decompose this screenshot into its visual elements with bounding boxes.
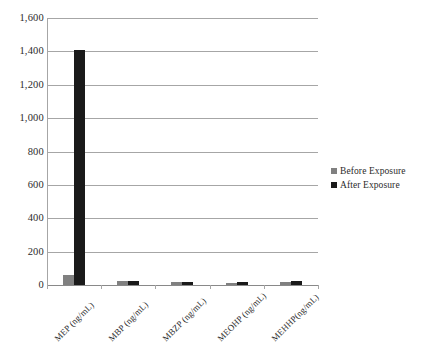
y-axis-tick-label: 200 — [0, 247, 44, 258]
bar-before-exposure — [63, 275, 74, 285]
x-axis-tick — [47, 285, 48, 289]
y-axis-tick-label: 600 — [0, 180, 44, 191]
bar-before-exposure — [171, 282, 182, 285]
bar-before-exposure — [280, 282, 291, 285]
y-axis-tick-label: 800 — [0, 147, 44, 158]
x-axis-tick — [101, 285, 102, 289]
y-axis-tick-label: 1,600 — [0, 13, 44, 24]
legend-label: After Exposure — [340, 178, 400, 192]
y-axis-tick-label: 0 — [0, 280, 44, 291]
bar-group — [264, 18, 318, 285]
x-axis-category-label: MEP (ng/mL) — [53, 301, 96, 344]
legend-swatch-icon — [331, 182, 337, 188]
y-axis-tick-label: 400 — [0, 213, 44, 224]
bar-chart: 02004006008001,0001,2001,4001,600 MEP (n… — [0, 0, 427, 359]
x-axis-tick — [155, 285, 156, 289]
bar-group — [210, 18, 264, 285]
legend-label: Before Exposure — [340, 164, 406, 178]
bar-after-exposure — [237, 282, 248, 285]
bar-after-exposure — [291, 281, 302, 285]
legend-item[interactable]: After Exposure — [331, 178, 406, 192]
bar-before-exposure — [226, 283, 237, 285]
y-axis-tick-label: 1,000 — [0, 113, 44, 124]
bar-before-exposure — [117, 281, 128, 285]
chart-legend: Before ExposureAfter Exposure — [331, 164, 406, 192]
bar-after-exposure — [182, 282, 193, 285]
bar-after-exposure — [74, 50, 85, 285]
legend-swatch-icon — [331, 168, 337, 174]
x-axis-category-label: MEHHP(ng/mL) — [270, 293, 321, 344]
axis-baseline — [47, 285, 318, 286]
x-axis-tick — [210, 285, 211, 289]
y-axis-tick-labels: 02004006008001,0001,2001,4001,600 — [0, 0, 44, 359]
x-axis-category-label: MBP (ng/mL) — [107, 300, 150, 343]
x-axis-category-label: MBZP (ng/mL) — [161, 296, 208, 343]
x-axis-category-label: MEOHP (ng/mL) — [216, 291, 268, 343]
y-axis-tick-label: 1,400 — [0, 46, 44, 57]
bar-group — [155, 18, 209, 285]
y-axis-tick-label: 1,200 — [0, 80, 44, 91]
x-axis-tick — [264, 285, 265, 289]
bar-after-exposure — [128, 281, 139, 285]
bar-group — [101, 18, 155, 285]
legend-item[interactable]: Before Exposure — [331, 164, 406, 178]
plot-area — [47, 18, 318, 285]
bar-group — [47, 18, 101, 285]
x-axis-tick — [318, 285, 319, 289]
